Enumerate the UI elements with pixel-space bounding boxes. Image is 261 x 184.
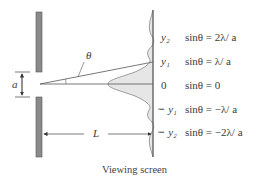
diffraction-diagram bbox=[0, 0, 261, 184]
position-label-neg-y1: − y₁ bbox=[158, 104, 177, 115]
equation-zero: sinθ = 0 bbox=[185, 80, 220, 91]
intensity-curve bbox=[108, 10, 154, 157]
distance-label: L bbox=[93, 128, 99, 139]
position-label-y1: y₁ bbox=[161, 56, 170, 67]
slit-width-label: a bbox=[12, 79, 18, 90]
theta-leader bbox=[78, 62, 84, 77]
equation-y1: sinθ = λ/ a bbox=[185, 56, 231, 67]
equation-y2: sinθ = 2λ/ a bbox=[185, 32, 236, 43]
equation-neg-y1: sinθ = −λ/ a bbox=[185, 104, 237, 115]
position-label-y2: y₂ bbox=[161, 32, 170, 43]
viewing-screen-caption: Viewing screen bbox=[102, 164, 167, 175]
theta-arc bbox=[66, 79, 67, 84]
angle-label: θ bbox=[86, 50, 91, 61]
slit-barrier-bottom bbox=[36, 97, 42, 157]
position-label-zero: 0 bbox=[161, 80, 167, 91]
position-label-neg-y2: − y₂ bbox=[158, 127, 177, 138]
slit-barrier-top bbox=[36, 12, 42, 72]
equation-neg-y2: sinθ = −2λ/ a bbox=[185, 127, 243, 138]
